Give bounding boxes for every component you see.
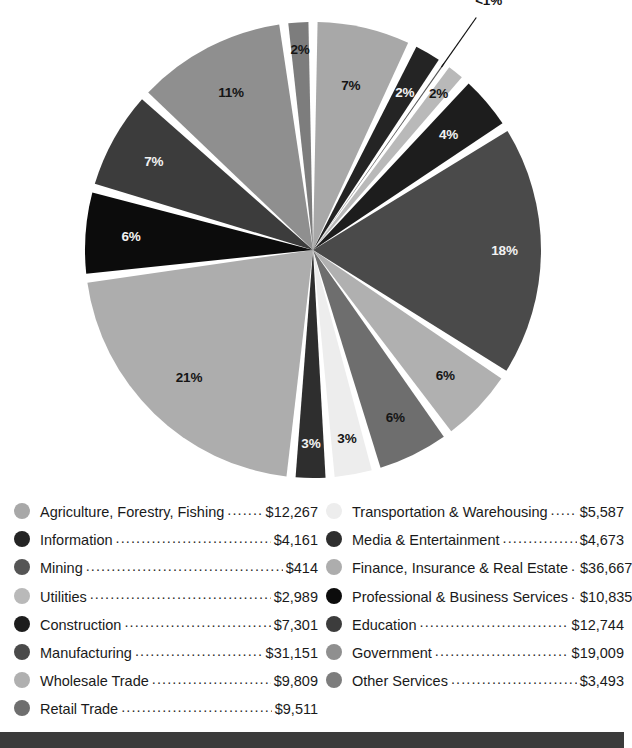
- pie-slice-group: [85, 22, 541, 478]
- legend-item[interactable]: Finance, Insurance & Real Estate$36,667: [326, 553, 624, 581]
- legend-item[interactable]: Mining$414: [14, 553, 318, 581]
- legend-item-value: $36,667: [577, 561, 632, 576]
- pie-callout-leader-line: [441, 18, 476, 68]
- legend-item[interactable]: Manufacturing$31,151: [14, 638, 318, 666]
- legend-swatch-icon: [14, 503, 30, 519]
- legend-item-label: Agriculture, Forestry, Fishing: [40, 505, 227, 520]
- legend-item[interactable]: Retail Trade$9,511: [14, 694, 318, 722]
- legend-text: Other Services$3,493: [352, 672, 624, 689]
- legend-dot-leader: [503, 531, 577, 546]
- legend-item-value: $19,009: [569, 646, 624, 661]
- pie-slice-percent-label: 2%: [429, 86, 448, 101]
- pie-chart-area: 7%2%<1%2%4%18%6%6%3%3%21%6%7%11%2%: [0, 0, 624, 492]
- legend-text: Wholesale Trade$9,809: [40, 672, 318, 689]
- legend-swatch-icon: [14, 616, 30, 632]
- legend-item-label: Government: [352, 646, 435, 661]
- legend-text: Education$12,744: [352, 615, 624, 632]
- pie-slice-percent-label: 7%: [341, 78, 360, 93]
- legend-dot-leader: [571, 587, 577, 602]
- legend-item[interactable]: Media & Entertainment$4,673: [326, 525, 624, 553]
- legend-item[interactable]: Construction$7,301: [14, 610, 318, 638]
- legend-dot-leader: [152, 672, 271, 687]
- pie-slice-percent-label: 6%: [386, 410, 405, 425]
- pie-slice-percent-label: 21%: [176, 370, 203, 385]
- legend-item[interactable]: Information$4,161: [14, 525, 318, 553]
- legend-swatch-icon: [14, 559, 30, 575]
- legend-text: Information$4,161: [40, 531, 318, 548]
- legend-dot-leader: [451, 672, 577, 687]
- legend-item-label: Information: [40, 533, 116, 548]
- legend-item[interactable]: Wholesale Trade$9,809: [14, 666, 318, 694]
- legend-item-label: Media & Entertainment: [352, 533, 503, 548]
- legend-item-value: $9,809: [271, 674, 318, 689]
- legend-column-left: Agriculture, Forestry, Fishing$12,267Inf…: [0, 497, 318, 722]
- legend-item-value: $10,835: [577, 590, 632, 605]
- pie-slice[interactable]: [87, 250, 313, 476]
- legend-item-label: Mining: [40, 561, 86, 576]
- legend-text: Manufacturing$31,151: [40, 644, 318, 661]
- legend-item-value: $9,511: [272, 702, 318, 717]
- pie-slice-percent-label: 2%: [395, 85, 414, 100]
- legend-item-value: $2,989: [271, 590, 318, 605]
- legend-text: Government$19,009: [352, 644, 624, 661]
- legend-item[interactable]: Agriculture, Forestry, Fishing$12,267: [14, 497, 318, 525]
- pie-slice-percent-label: <1%: [475, 0, 502, 8]
- legend-dot-leader: [551, 503, 577, 518]
- legend-text: Agriculture, Forestry, Fishing$12,267: [40, 503, 318, 520]
- legend-swatch-icon: [14, 672, 30, 688]
- legend-item-label: Professional & Business Services: [352, 590, 571, 605]
- legend-dot-leader: [86, 559, 283, 574]
- pie-slice-percent-label: 3%: [337, 431, 356, 446]
- legend-item-label: Finance, Insurance & Real Estate: [352, 561, 571, 576]
- legend-item[interactable]: Professional & Business Services$10,835: [326, 582, 624, 610]
- legend-item-label: Retail Trade: [40, 702, 121, 717]
- legend-text: Finance, Insurance & Real Estate$36,667: [352, 559, 624, 576]
- legend-dot-leader: [420, 615, 569, 630]
- legend-item-label: Other Services: [352, 674, 451, 689]
- legend-item[interactable]: Transportation & Warehousing$5,587: [326, 497, 624, 525]
- legend-item-value: $12,744: [569, 618, 624, 633]
- legend-item[interactable]: Education$12,744: [326, 610, 624, 638]
- legend-item-value: $3,493: [577, 674, 624, 689]
- pie-slice-percent-label: 7%: [144, 154, 163, 169]
- legend-item-value: $4,673: [577, 533, 624, 548]
- legend-swatch-icon: [326, 588, 342, 604]
- legend-text: Professional & Business Services$10,835: [352, 587, 624, 604]
- legend-text: Mining$414: [40, 559, 318, 576]
- legend-swatch-icon: [326, 672, 342, 688]
- pie-slice-percent-label: 4%: [439, 127, 458, 142]
- legend-swatch-icon: [14, 700, 30, 716]
- legend-dot-leader: [135, 644, 263, 659]
- legend-item-label: Education: [352, 618, 420, 633]
- legend-text: Media & Entertainment$4,673: [352, 531, 624, 548]
- legend-item-value: $7,301: [271, 618, 318, 633]
- legend-swatch-icon: [326, 644, 342, 660]
- legend-item-label: Manufacturing: [40, 646, 135, 661]
- legend-swatch-icon: [326, 559, 342, 575]
- legend-item-value: $4,161: [271, 533, 318, 548]
- legend-item-label: Wholesale Trade: [40, 674, 152, 689]
- legend-item[interactable]: Other Services$3,493: [326, 666, 624, 694]
- pie-slice-percent-label: 18%: [491, 243, 518, 258]
- legend-dot-leader: [435, 644, 569, 659]
- pie-slice-percent-label: 6%: [122, 229, 141, 244]
- legend-item[interactable]: Government$19,009: [326, 638, 624, 666]
- pie-slice-percent-label: 2%: [291, 42, 310, 57]
- legend-swatch-icon: [14, 644, 30, 660]
- legend-swatch-icon: [326, 616, 342, 632]
- footer-bar: [0, 731, 624, 748]
- legend-item-value: $12,267: [263, 505, 318, 520]
- legend-dot-leader: [90, 587, 271, 602]
- legend-dot-leader: [124, 615, 270, 630]
- chart-legend: Agriculture, Forestry, Fishing$12,267Inf…: [0, 497, 624, 722]
- legend-dot-leader: [121, 700, 272, 715]
- legend-item[interactable]: Utilities$2,989: [14, 582, 318, 610]
- legend-item-value: $5,587: [577, 505, 624, 520]
- legend-swatch-icon: [326, 503, 342, 519]
- legend-swatch-icon: [326, 531, 342, 547]
- legend-swatch-icon: [14, 531, 30, 547]
- legend-text: Utilities$2,989: [40, 587, 318, 604]
- legend-item-label: Utilities: [40, 590, 90, 605]
- legend-item-label: Construction: [40, 618, 124, 633]
